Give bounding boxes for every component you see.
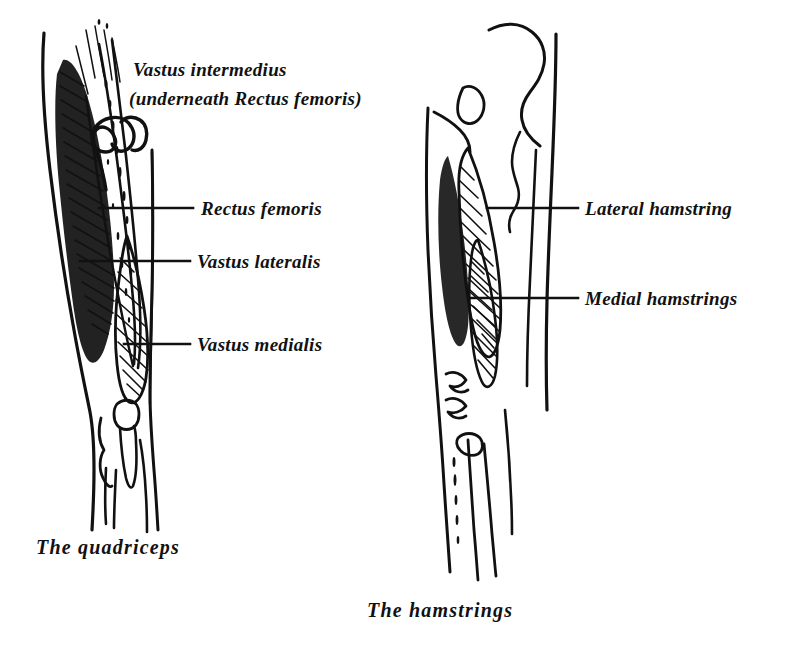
patellar-tendon	[120, 426, 136, 488]
hamstring-lateral-outline	[546, 34, 556, 410]
label-vastus-intermedius-line1: Vastus intermedius	[133, 59, 287, 80]
patella	[114, 400, 139, 429]
label-vastus-lateralis: Vastus lateralis	[197, 251, 321, 272]
femur-shaft-inner	[509, 132, 520, 232]
ischial-tuberosity	[458, 86, 484, 123]
calf-inner-line-a	[468, 440, 478, 580]
label-vastus-medialis: Vastus medialis	[197, 334, 322, 355]
label-rectus-femoris: Rectus femoris	[200, 198, 322, 219]
popliteal-fold-upper	[446, 372, 468, 392]
gluteal-contour	[489, 24, 545, 146]
hamstring-medial-upper-contour	[434, 112, 470, 152]
label-vastus-intermedius-line2: (underneath Rectus femoris)	[129, 88, 362, 110]
quad-proximal-speckles	[98, 19, 109, 29]
caption-the-quadriceps: The quadriceps	[36, 536, 180, 559]
vastus-lateralis-mass	[55, 60, 114, 363]
femur-shaft-outer	[527, 150, 536, 386]
lower-leg-outer-line	[140, 440, 147, 532]
lower-leg-inner-line-a	[105, 468, 106, 524]
label-medial-hamstrings: Medial hamstrings	[584, 288, 737, 309]
lower-leg-inner-line-b	[114, 470, 116, 528]
calf-outer-line	[505, 410, 512, 534]
calf-inner-line-b	[484, 444, 496, 576]
anatomy-diagram-canvas: Vastus intermedius (underneath Rectus fe…	[0, 0, 792, 651]
popliteal-fold-lower	[446, 398, 466, 418]
anatomy-figure-root: Vastus intermedius (underneath Rectus fe…	[0, 0, 792, 651]
figure-hamstrings: Lateral hamstring Medial hamstrings The …	[367, 24, 737, 622]
label-lateral-hamstring: Lateral hamstring	[584, 198, 732, 219]
calf-dotted-line	[453, 457, 460, 544]
figure-quadriceps: Vastus intermedius (underneath Rectus fe…	[36, 19, 362, 559]
caption-the-hamstrings: The hamstrings	[367, 599, 513, 622]
